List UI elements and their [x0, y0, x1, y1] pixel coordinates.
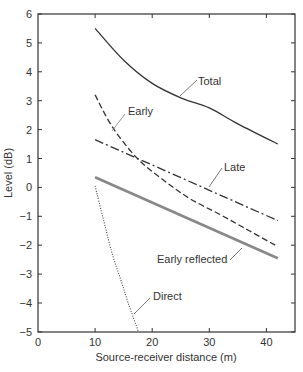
label-total: Total — [198, 75, 221, 87]
y-tick-label: 3 — [26, 95, 32, 107]
y-tick-label: 1 — [26, 153, 32, 165]
y-tick-label: 6 — [26, 8, 32, 20]
early-reflected-leader — [230, 248, 242, 260]
y-tick-label: 2 — [26, 124, 32, 136]
label-early-reflected: Early reflected — [157, 253, 227, 265]
x-tick-label: 20 — [146, 336, 158, 348]
x-tick-label: 30 — [203, 336, 215, 348]
y-tick-label: −2 — [19, 239, 32, 251]
y-tick-label: 0 — [26, 181, 32, 193]
label-late: Late — [224, 161, 245, 173]
label-early: Early — [128, 105, 154, 117]
plot-frame — [38, 14, 295, 332]
y-axis: 6543210−1−2−3−4−5 — [19, 8, 295, 338]
y-tick-label: −1 — [19, 210, 32, 222]
late-leader — [209, 168, 222, 187]
y-tick-label: 5 — [26, 37, 32, 49]
direct-leader — [134, 298, 150, 314]
x-axis-title: Source-receiver distance (m) — [95, 351, 236, 363]
y-tick-label: −5 — [19, 326, 32, 338]
early-leader — [112, 114, 125, 131]
series-total — [95, 28, 278, 144]
y-tick-label: 4 — [26, 66, 32, 78]
chart: 6543210−1−2−3−4−5 010203040 Total Early … — [0, 0, 303, 372]
x-tick-label: 40 — [260, 336, 272, 348]
y-tick-label: −3 — [19, 268, 32, 280]
total-leader — [180, 80, 197, 96]
series-direct — [95, 186, 138, 332]
y-tick-label: −4 — [19, 297, 32, 309]
series-group — [95, 28, 278, 332]
series-late — [95, 140, 278, 221]
x-tick-label: 10 — [89, 336, 101, 348]
x-tick-label: 0 — [35, 336, 41, 348]
series-early-reflected — [95, 177, 278, 258]
y-axis-title: Level (dB) — [2, 148, 14, 198]
label-direct: Direct — [153, 290, 182, 302]
